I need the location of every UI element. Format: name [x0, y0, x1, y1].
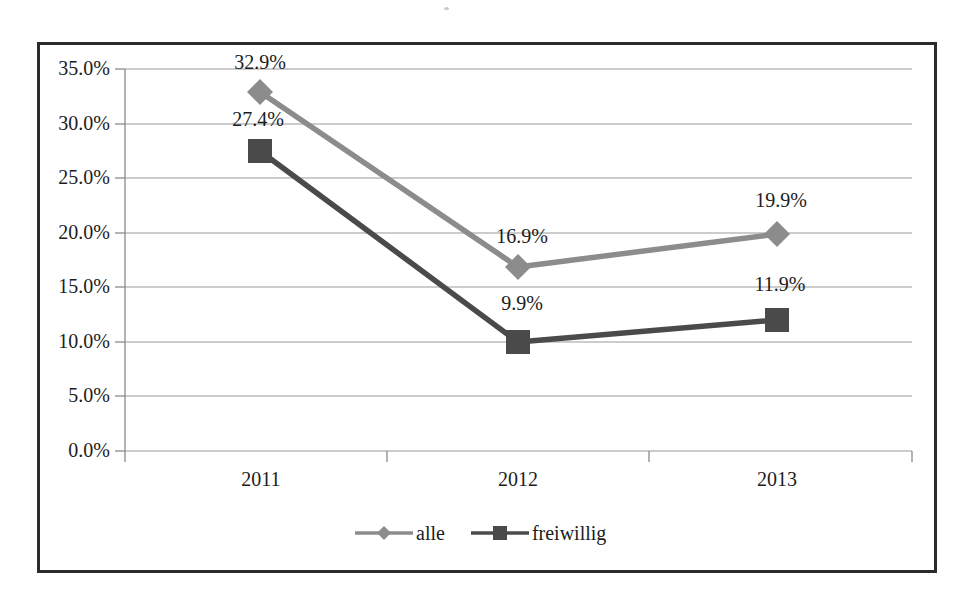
y-tick-label-35: 35.0% — [32, 57, 110, 80]
x-tick-label-2012: 2012 — [468, 468, 568, 491]
y-tick-label-5: 5.0% — [32, 384, 110, 407]
data-label-alle-2013: 19.9% — [731, 189, 831, 212]
legend-label-freiwillig: freiwillig — [532, 522, 606, 545]
chart-legend: alle freiwillig — [355, 516, 645, 550]
legend-marker-diamond-icon — [355, 525, 413, 541]
line-chart: 35.0% 30.0% 25.0% 20.0% 15.0% 10.0% 5.0%… — [0, 0, 968, 609]
y-tick-label-15: 15.0% — [32, 275, 110, 298]
data-label-alle-2012: 16.9% — [472, 225, 572, 248]
y-tick-label-0: 0.0% — [32, 439, 110, 462]
x-tick-label-2011: 2011 — [211, 468, 311, 491]
data-label-freiwillig-2012: 9.9% — [477, 292, 567, 315]
legend-entry-freiwillig[interactable]: freiwillig — [471, 522, 606, 545]
y-tick-label-30: 30.0% — [32, 112, 110, 135]
y-tick-label-25: 25.0% — [32, 166, 110, 189]
x-tick-label-2013: 2013 — [727, 468, 827, 491]
legend-label-alle: alle — [416, 522, 445, 545]
legend-entry-alle[interactable]: alle — [355, 522, 445, 545]
y-tick-label-10: 10.0% — [32, 330, 110, 353]
data-label-alle-2011: 32.9% — [210, 51, 310, 74]
y-tick-label-20: 20.0% — [32, 221, 110, 244]
data-label-freiwillig-2013: 11.9% — [730, 273, 830, 296]
scan-artifact-speck — [444, 7, 449, 10]
legend-marker-square-icon — [471, 525, 529, 541]
data-label-freiwillig-2011: 27.4% — [208, 108, 308, 131]
